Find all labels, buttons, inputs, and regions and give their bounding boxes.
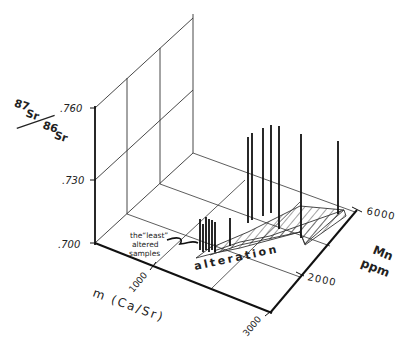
least-altered-annotation: the“least” altered samples [129,231,198,258]
svg-text:Sr: Sr [53,129,70,146]
y-tick-label-6000: 6000 [366,205,397,222]
z-tick-730: .730 [62,175,84,186]
z-tick-760: .760 [60,103,82,114]
svg-text:the“least”: the“least” [130,231,168,240]
svg-text:samples: samples [129,249,160,258]
z-tick-700: .700 [58,239,80,250]
svg-text:altered: altered [132,240,159,249]
y-tick-label-2000: 2000 [307,271,338,288]
x-tick-label-3000: 3000 [241,314,264,338]
x-axis-label: m (Ca/Sr) [91,286,166,325]
back-wall-grid [95,14,193,243]
3d-stick-chart: .760 .730 .700 87 Sr 86 Sr 1000 3000 m (… [0,0,407,341]
x-tick-label-1000: 1000 [127,270,150,294]
z-tick-labels: .760 .730 .700 [58,103,84,250]
